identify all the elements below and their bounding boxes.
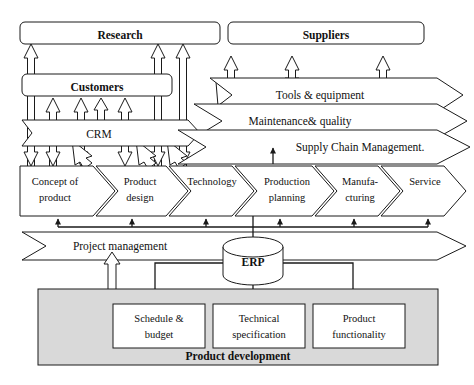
label-technology-line1: Technology [187,176,237,187]
label-service-line1: Service [409,176,441,187]
label-suppliers: Suppliers [303,29,350,42]
label-technical-specification-line2: specification [232,329,286,340]
label-supply-chain-management: Supply Chain Management. [296,141,425,154]
process-integration-diagram: Research Suppliers Customers CRM Tools &… [0,0,474,385]
label-manufacturing-line2: cturing [345,192,375,203]
label-tools-equipment: Tools & equipment [276,89,365,102]
diagram-canvas: Research Suppliers Customers CRM Tools &… [0,0,474,385]
label-schedule-budget-line1: Schedule & [134,313,183,324]
box-schedule-budget [113,304,205,348]
label-manufacturing-line1: Manufa- [342,176,379,187]
label-schedule-budget-line2: budget [145,329,174,340]
label-customers: Customers [70,81,124,93]
label-concept-of-product-line2: product [39,192,71,203]
box-technical-specification [213,304,305,348]
label-erp: ERP [242,256,265,268]
box-product-functionality [313,304,405,348]
label-product-design-line1: Product [124,176,157,187]
label-project-management: Project management [73,240,168,253]
label-maintenance-quality: Maintenance& quality [248,115,351,128]
label-product-functionality-line1: Product [343,313,376,324]
process-chevron-row [20,166,466,216]
label-production-planning-line1: Production [264,176,311,187]
label-concept-of-product-line1: Concept of [32,176,79,187]
label-research: Research [97,29,143,41]
hollow-arrow-group-left [24,44,190,168]
label-technical-specification-line1: Technical [239,313,280,324]
label-product-design-line2: design [126,192,154,203]
label-product-functionality-line2: functionality [332,329,386,340]
label-crm: CRM [86,128,112,140]
chevron-concept-of-product [20,166,115,216]
label-production-planning-line2: planning [269,192,306,203]
label-product-development: Product development [186,350,291,363]
